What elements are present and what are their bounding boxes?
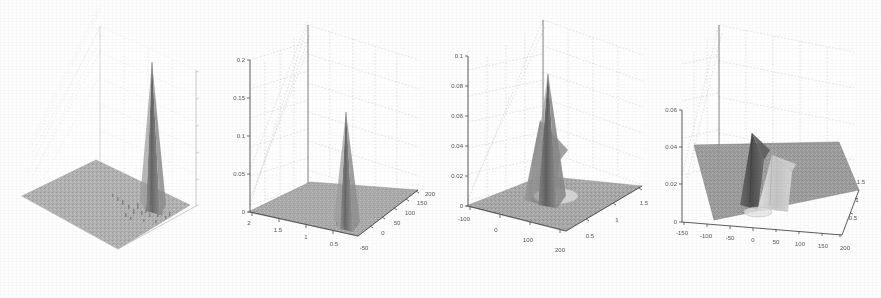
panel-4-xtick-2: -50 [726, 235, 735, 241]
panel-3-xtick-3: 200 [555, 247, 566, 253]
panel-4-xtick-5: 100 [795, 241, 806, 247]
panel-2-xtick-2: 1 [304, 234, 308, 240]
panel-3-z-ticks: 0.1 0.08 0.06 0.04 0.02 0 [451, 53, 463, 209]
panel-4-z-ticks: 0.06 0.04 0.02 0 [665, 107, 677, 225]
panel-2: 0.2 0.15 0.1 0.05 0 2 1.5 1 0.5 -50 0 50… [218, 0, 438, 298]
panel-4-xtick-0: -150 [676, 230, 689, 236]
panel-1-plot [0, 0, 218, 298]
panel-4-xtick-1: -100 [700, 233, 713, 239]
panel-3-plot: 0.1 0.08 0.06 0.04 0.02 0 -100 0 100 200… [438, 0, 654, 298]
panel-4-ytick-1: 1 [855, 197, 859, 203]
panel-3-ztick-1: 0.08 [451, 83, 463, 89]
panel-3-ztick-2: 0.06 [451, 113, 463, 119]
panel-3-ytick-2: 1.5 [640, 200, 649, 206]
panel-4-ztick-0: 0.06 [665, 107, 677, 113]
panel-2-xtick-3: 0.5 [330, 241, 339, 247]
panel-2-z-ticks: 0.2 0.15 0.1 0.05 0 [233, 57, 245, 215]
panel-3-ztick-0: 0.1 [455, 53, 464, 59]
panel-2-ytick-3: 100 [405, 210, 416, 216]
panel-2-ztick-0: 0.2 [237, 57, 246, 63]
panel-2-ztick-4: 0 [242, 209, 246, 215]
panel-2-ytick-2: 50 [394, 220, 401, 226]
panel-4-xtick-4: 50 [773, 239, 780, 245]
panel-3: 0.1 0.08 0.06 0.04 0.02 0 -100 0 100 200… [438, 0, 654, 298]
panel-4-xtick-7: 200 [840, 245, 851, 251]
panel-3-ztick-5: 0 [460, 203, 464, 209]
panel-2-ytick-4: 150 [417, 200, 428, 206]
panel-2-ztick-1: 0.15 [233, 95, 245, 101]
panel-4-plot: 0.06 0.04 0.02 0 -150 -100 -50 0 50 100 … [654, 0, 881, 298]
panel-2-plot: 0.2 0.15 0.1 0.05 0 2 1.5 1 0.5 -50 0 50… [218, 0, 438, 298]
panel-4-ztick-3: 0 [674, 219, 678, 225]
panel-4-xtick-6: 150 [818, 243, 829, 249]
panel-4-ztick-2: 0.02 [665, 181, 677, 187]
panel-3-ztick-3: 0.04 [451, 143, 463, 149]
panel-2-xtick-0: 2 [247, 220, 251, 226]
figure-container: 0.2 0.15 0.1 0.05 0 2 1.5 1 0.5 -50 0 50… [0, 0, 881, 298]
panel-4-xtick-3: 0 [751, 237, 755, 243]
panel-2-walls [250, 25, 419, 205]
panel-4-ztick-1: 0.04 [665, 144, 677, 150]
panel-2-xtick-1: 1.5 [274, 227, 283, 233]
panel-3-xtick-1: 0 [494, 227, 498, 233]
panel-2-ytick-5: 200 [425, 191, 436, 197]
panel-3-xtick-2: 100 [523, 237, 534, 243]
panel-2-ytick-0: -50 [360, 245, 369, 251]
panel-1 [0, 0, 218, 298]
panel-4-ytick-2: 0.5 [849, 215, 858, 221]
panel-4: 0.06 0.04 0.02 0 -150 -100 -50 0 50 100 … [654, 0, 881, 298]
panel-3-ytick-0: 0.5 [586, 233, 595, 239]
panel-2-ytick-1: 0 [381, 230, 385, 236]
panel-3-xtick-0: -100 [458, 216, 471, 222]
panel-2-ztick-3: 0.05 [233, 171, 245, 177]
panel-4-ytick-0: 1.5 [857, 179, 866, 185]
panel-3-ztick-4: 0.02 [451, 173, 463, 179]
panel-3-ytick-1: 1 [615, 217, 619, 223]
panel-2-ztick-2: 0.1 [237, 133, 246, 139]
